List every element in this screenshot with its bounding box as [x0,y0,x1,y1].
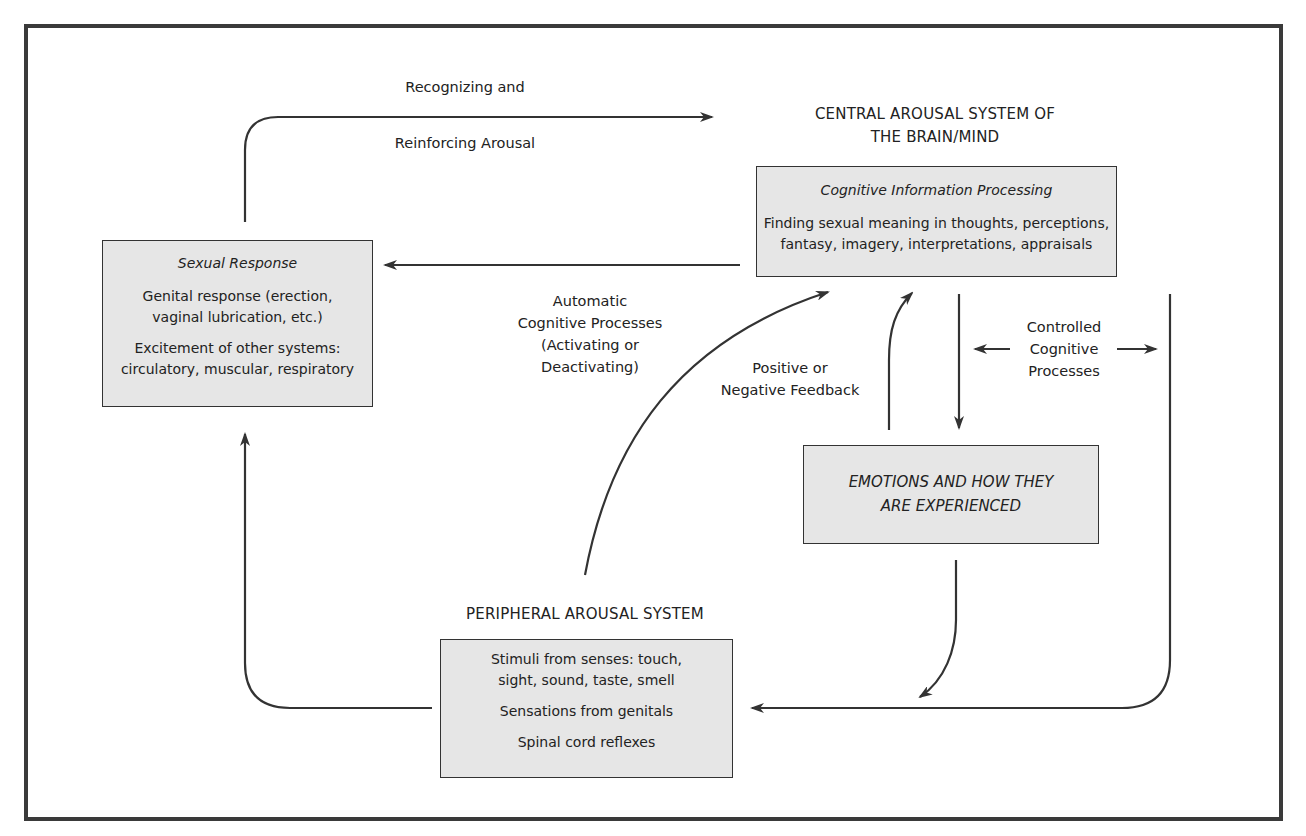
cognitive-box-text-line1: Finding sexual meaning in thoughts, perc… [757,213,1116,234]
sexual-response-box: Sexual Response Genital response (erecti… [102,240,373,407]
cognitive-processing-box: Cognitive Information Processing Finding… [756,166,1117,277]
excitement-line1: Excitement of other systems: [135,340,341,356]
stimuli-line2: sight, sound, taste, smell [498,672,674,688]
peripheral-to-response-arrow [245,434,432,708]
recognizing-label-line2: Reinforcing Arousal [330,132,600,154]
cognitive-box-text-line2: fantasy, imagery, interpretations, appra… [757,234,1116,255]
emotions-line1: EMOTIONS AND HOW THEY [804,470,1098,494]
genital-line1: Genital response (erection, [143,288,333,304]
automatic-line3: (Activating or [500,334,680,356]
feedback-line1: Positive or [705,357,875,379]
excitement-line2: circulatory, muscular, respiratory [121,361,354,377]
recognizing-label-line1: Recognizing and [330,76,600,98]
automatic-line4: Deactivating) [500,356,680,378]
stimuli-line1: Stimuli from senses: touch, [491,651,682,667]
genital-response-text: Genital response (erection, vaginal lubr… [103,286,372,328]
controlled-line2: Cognitive [1012,338,1116,360]
emotions-to-peripheral-arrow [920,560,956,697]
peripheral-system-box: Stimuli from senses: touch, sight, sound… [440,639,733,778]
emotions-line2: ARE EXPERIENCED [804,494,1098,518]
central-heading-line2: THE BRAIN/MIND [780,126,1090,149]
sensations-text: Sensations from genitals [441,701,732,722]
cognitive-box-title: Cognitive Information Processing [757,180,1116,201]
genital-line2: vaginal lubrication, etc.) [152,309,322,325]
feedback-arrow [889,293,912,430]
emotions-box: EMOTIONS AND HOW THEY ARE EXPERIENCED [803,445,1099,544]
central-heading-line1: CENTRAL AROUSAL SYSTEM OF [780,103,1090,126]
controlled-line1: Controlled [1012,316,1116,338]
stimuli-text: Stimuli from senses: touch, sight, sound… [441,649,732,691]
central-system-heading: CENTRAL AROUSAL SYSTEM OF THE BRAIN/MIND [780,103,1090,149]
automatic-line1: Automatic [500,290,680,312]
excitement-text: Excitement of other systems: circulatory… [103,338,372,380]
recognizing-label: Recognizing and [330,76,600,98]
sexual-response-title: Sexual Response [103,253,372,274]
peripheral-heading-text: PERIPHERAL AROUSAL SYSTEM [430,603,740,626]
automatic-line2: Cognitive Processes [500,312,680,334]
feedback-line2: Negative Feedback [705,379,875,401]
reflexes-text: Spinal cord reflexes [441,732,732,753]
peripheral-system-heading: PERIPHERAL AROUSAL SYSTEM [430,603,740,626]
controlled-processes-label: Controlled Cognitive Processes [1012,316,1116,382]
controlled-line3: Processes [1012,360,1116,382]
feedback-label: Positive or Negative Feedback [705,357,875,401]
reinforcing-label: Reinforcing Arousal [330,132,600,154]
automatic-processes-label: Automatic Cognitive Processes (Activatin… [500,290,680,378]
